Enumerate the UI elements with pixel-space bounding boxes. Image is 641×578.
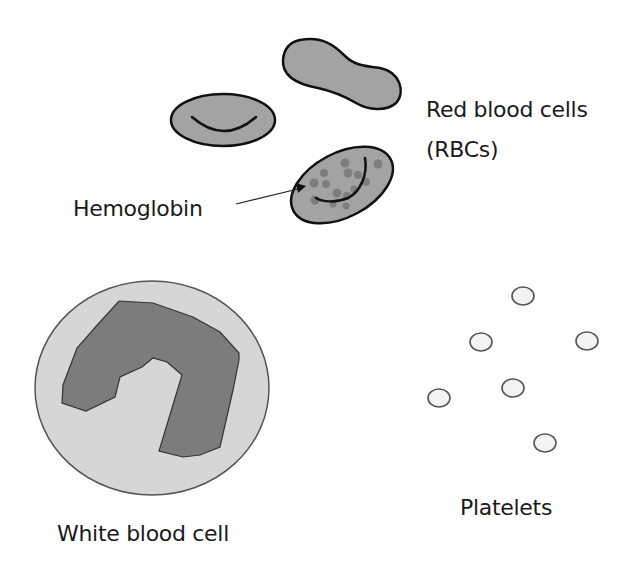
blood-cells-diagram [0,0,641,578]
white-blood-cell-label: White blood cell [57,523,229,545]
rbc-label-line2: (RBCs) [426,139,498,161]
platelet [534,434,556,452]
rbc-peanut [283,39,401,109]
platelet [428,389,450,407]
platelet [512,287,534,305]
platelets [428,287,598,452]
platelet [576,332,598,350]
rbc-disc [171,94,275,146]
platelets-label: Platelets [460,497,552,519]
platelet [502,379,524,397]
white-blood-cell [35,281,269,495]
hemoglobin-label: Hemoglobin [73,198,203,220]
rbc-label-line1: Red blood cells [426,99,588,121]
platelet [470,333,492,351]
